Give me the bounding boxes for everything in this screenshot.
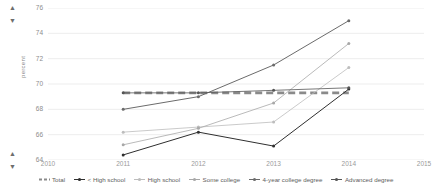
y-tick-label: 76 — [27, 4, 43, 11]
y-tick-label: 70 — [27, 80, 43, 87]
spinner-down-icon[interactable]: ▼ — [9, 17, 16, 24]
data-point-marker[interactable] — [272, 102, 275, 105]
y-axis-label: percent — [20, 56, 26, 78]
legend-item[interactable]: 4-year college degree — [249, 176, 322, 183]
y-axis-min-spinner[interactable]: ▲ ▼ — [6, 150, 19, 170]
y-tick-label: 68 — [27, 105, 43, 112]
data-point-marker[interactable] — [197, 127, 200, 130]
legend-item[interactable]: < High school — [74, 176, 125, 183]
legend-marker-icon — [74, 176, 85, 183]
x-tick-label: 2013 — [254, 160, 294, 167]
legend-marker-icon — [331, 176, 342, 183]
x-tick-label: 2012 — [178, 160, 218, 167]
y-tick-label: 72 — [27, 55, 43, 62]
legend-item[interactable]: Some college — [189, 176, 240, 183]
x-tick-label: 2015 — [404, 160, 432, 167]
data-point-marker[interactable] — [122, 91, 125, 94]
spinner-down-icon[interactable]: ▼ — [9, 163, 16, 170]
series-layer — [122, 19, 351, 156]
legend-marker-icon — [249, 176, 260, 183]
data-point-marker[interactable] — [122, 143, 125, 146]
legend-label: High school — [148, 176, 180, 183]
legend-label: Some college — [203, 176, 241, 183]
legend-item[interactable]: High school — [134, 176, 180, 183]
series-line — [123, 21, 349, 110]
data-point-marker[interactable] — [272, 89, 275, 92]
chart-root: ▲ ▼ ▲ ▼ percent 64666870727476 201020112… — [0, 0, 432, 194]
legend-item[interactable]: Advanced degree — [331, 176, 393, 183]
series-line — [123, 68, 349, 133]
series-line — [123, 89, 349, 155]
y-axis-max-spinner[interactable]: ▲ ▼ — [6, 4, 19, 24]
legend-label: 4-year college degree — [263, 176, 323, 183]
data-point-marker[interactable] — [347, 19, 350, 22]
chart-legend: Total< High schoolHigh schoolSome colleg… — [0, 176, 432, 183]
plot-area — [48, 8, 424, 160]
y-tick-label: 66 — [27, 131, 43, 138]
data-point-marker[interactable] — [272, 121, 275, 124]
chart-svg — [48, 8, 424, 160]
data-point-marker[interactable] — [197, 131, 200, 134]
x-tick-label: 2010 — [28, 160, 68, 167]
data-point-marker[interactable] — [122, 153, 125, 156]
legend-marker-icon — [134, 176, 145, 183]
legend-label: Total — [52, 176, 65, 183]
data-point-marker[interactable] — [272, 145, 275, 148]
data-point-marker[interactable] — [347, 86, 350, 89]
data-point-marker[interactable] — [347, 66, 350, 69]
legend-marker-icon — [39, 176, 50, 183]
data-point-marker[interactable] — [272, 64, 275, 67]
data-point-marker[interactable] — [347, 42, 350, 45]
x-tick-label: 2011 — [103, 160, 143, 167]
legend-item[interactable]: Total — [39, 176, 66, 183]
y-tick-label: 74 — [27, 29, 43, 36]
spinner-up-icon[interactable]: ▲ — [9, 4, 16, 11]
data-point-marker[interactable] — [197, 95, 200, 98]
gridlines — [48, 8, 424, 160]
data-point-marker[interactable] — [122, 108, 125, 111]
legend-marker-icon — [189, 176, 200, 183]
x-tick-label: 2014 — [329, 160, 369, 167]
data-point-marker[interactable] — [197, 91, 200, 94]
spinner-up-icon[interactable]: ▲ — [9, 150, 16, 157]
data-point-marker[interactable] — [122, 131, 125, 134]
legend-label: Advanced degree — [345, 176, 394, 183]
legend-label: < High school — [88, 176, 126, 183]
